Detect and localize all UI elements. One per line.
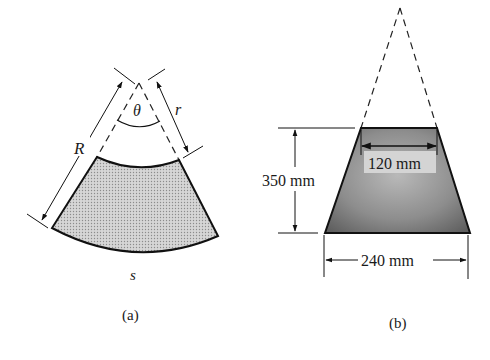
height-label: 350 mm bbox=[262, 172, 315, 189]
diagram-canvas: θ R r s (a) 120 mm 350 mm bbox=[0, 0, 490, 360]
frustum-shape bbox=[325, 128, 470, 233]
r-outer-ext-top bbox=[114, 68, 135, 84]
sector-shape bbox=[52, 157, 218, 252]
arc-length-label: s bbox=[130, 267, 136, 283]
inner-radius-label: r bbox=[175, 101, 182, 118]
r-inner-ext-top bbox=[148, 69, 165, 80]
figure-b-truncated-cone: 120 mm 350 mm 240 mm (b) bbox=[262, 8, 470, 332]
figure-b-caption: (b) bbox=[389, 315, 407, 332]
dashed-apex-right bbox=[400, 8, 437, 128]
outer-radius-label: R bbox=[73, 139, 85, 158]
figure-a-annular-sector: θ R r s (a) bbox=[27, 68, 218, 324]
theta-arc bbox=[117, 120, 160, 127]
top-width-label: 120 mm bbox=[368, 155, 421, 172]
inner-radius-dimension bbox=[157, 82, 188, 152]
dashed-apex-left bbox=[361, 8, 400, 128]
theta-label: θ bbox=[133, 102, 141, 119]
bottom-width-label: 240 mm bbox=[361, 252, 414, 269]
figure-a-caption: (a) bbox=[122, 307, 139, 324]
r-outer-ext-bottom bbox=[27, 214, 48, 228]
